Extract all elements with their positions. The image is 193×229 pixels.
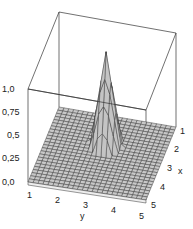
y-tick-label: 5 (139, 211, 144, 221)
z-tick-label: 0,25 (2, 153, 20, 163)
surface-plot: 1,0 0,75 0,5 0,25 0,0 1 2 3 4 5 y 1 2 3 … (0, 0, 193, 229)
y-tick-label: 1 (27, 190, 32, 200)
x-tick-label: 2 (174, 144, 179, 154)
y-tick-label: 2 (55, 195, 60, 205)
z-tick-label: 1,0 (2, 84, 15, 94)
x-tick-label: 4 (160, 182, 165, 192)
x-tick-label: 3 (167, 163, 172, 173)
x-tick-label: 5 (151, 200, 156, 210)
box-front-top-edge (28, 89, 146, 110)
z-tick-label: 0,0 (2, 177, 15, 187)
y-tick-label: 3 (83, 200, 88, 210)
z-axis: 1,0 0,75 0,5 0,25 0,0 (2, 84, 20, 187)
z-tick-label: 0,75 (2, 107, 20, 117)
y-axis-title: y (80, 211, 85, 221)
x-axis-title: x (178, 166, 183, 176)
y-tick-label: 4 (111, 205, 116, 215)
x-tick-label: 1 (180, 126, 185, 136)
z-tick-label: 0,5 (7, 130, 20, 140)
